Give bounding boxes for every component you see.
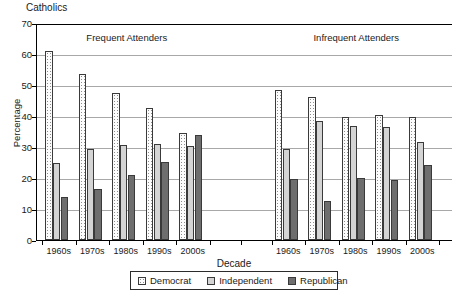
y-tick-label: 70	[21, 19, 32, 29]
y-tick-label: 10	[21, 205, 32, 215]
legend-item-democrat: Democrat	[138, 276, 191, 286]
x-tick-mark	[305, 241, 306, 245]
x-tick-mark	[372, 241, 373, 245]
chart-legend: DemocratIndependentRepublican	[130, 271, 338, 290]
chart-figure: Catholics Percentage 010203040506070 Fre…	[0, 0, 468, 298]
legend-item-independent: Independent	[207, 276, 272, 286]
y-tick-label: 40	[21, 112, 32, 122]
legend-swatch-democrat	[138, 277, 146, 285]
plot-area: Frequent AttendersInfrequent Attenders	[36, 24, 452, 241]
x-tick-label-1970s: 1970s	[309, 246, 334, 256]
legend-label-independent: Independent	[219, 276, 272, 286]
x-tick-mark	[176, 241, 177, 245]
x-tick-label-1980s: 1980s	[343, 246, 368, 256]
x-tick-label-1990s: 1990s	[376, 246, 401, 256]
x-tick-mark	[76, 241, 77, 245]
x-tick-label-1960s: 1960s	[276, 246, 301, 256]
x-tick-label-1980s: 1980s	[113, 246, 138, 256]
x-tick-mark	[406, 241, 407, 245]
x-tick-mark	[272, 241, 273, 245]
panel-caption: Infrequent Attenders	[313, 32, 399, 43]
chart-title: Catholics	[26, 2, 67, 14]
x-tick-label-2000s: 2000s	[410, 246, 435, 256]
legend-swatch-republican	[288, 277, 296, 285]
x-tick-label-1960s: 1960s	[46, 246, 71, 256]
legend-label-republican: Republican	[300, 276, 348, 286]
x-axis-tick-labels: 1960s1970s1980s1990s2000s1960s1970s1980s…	[36, 246, 452, 258]
x-axis-label: Decade	[0, 258, 468, 269]
x-tick-mark	[210, 241, 211, 245]
y-axis-ticks: 010203040506070	[0, 24, 32, 241]
y-tick-label: 30	[21, 143, 32, 153]
legend-item-republican: Republican	[288, 276, 348, 286]
x-tick-mark	[109, 241, 110, 245]
x-tick-label-1970s: 1970s	[80, 246, 105, 256]
panel-caption: Frequent Attenders	[86, 32, 167, 43]
x-tick-label-1990s: 1990s	[147, 246, 172, 256]
y-tick-label: 60	[21, 50, 32, 60]
panel-captions: Frequent AttendersInfrequent Attenders	[37, 24, 452, 240]
x-tick-label-2000s: 2000s	[180, 246, 205, 256]
x-tick-mark	[143, 241, 144, 245]
x-tick-mark	[439, 241, 440, 245]
x-tick-mark	[42, 241, 43, 245]
y-tick-label: 20	[21, 174, 32, 184]
x-tick-mark	[241, 241, 242, 245]
legend-label-democrat: Democrat	[150, 276, 191, 286]
x-tick-mark	[339, 241, 340, 245]
legend-swatch-independent	[207, 277, 215, 285]
y-tick-label: 50	[21, 81, 32, 91]
